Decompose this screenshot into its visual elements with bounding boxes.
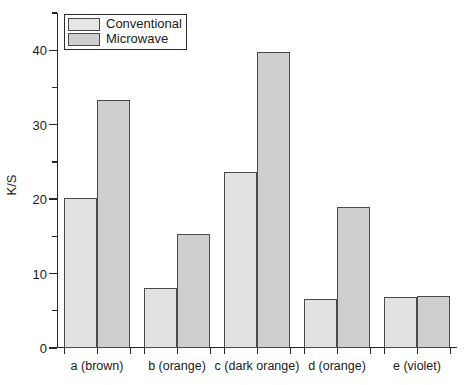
y-tick-major (49, 198, 57, 199)
bar-conventional (224, 172, 257, 348)
x-tick (144, 348, 145, 354)
x-tick (417, 348, 418, 354)
plot-area: 010203040 a (brown)b (orange)c (dark ora… (57, 13, 457, 348)
y-tick-label: 30 (33, 117, 47, 132)
bar-microwave (177, 234, 210, 348)
x-tick (130, 348, 131, 354)
x-tick (177, 348, 178, 354)
y-tick-label: 10 (33, 266, 47, 281)
y-tick-label: 40 (33, 43, 47, 58)
bar-conventional (304, 299, 337, 348)
y-tick-minor (52, 87, 57, 88)
bar-conventional (64, 198, 97, 348)
y-tick-major (49, 50, 57, 51)
y-tick-major (49, 273, 57, 274)
y-tick-minor (52, 12, 57, 13)
x-tick (290, 348, 291, 354)
bar-microwave (97, 100, 130, 348)
bar-conventional (384, 297, 417, 348)
x-tick (224, 348, 225, 354)
x-category-label: c (dark orange) (215, 359, 300, 373)
legend-swatch-conventional-icon (68, 18, 100, 31)
x-category-label: d (orange) (308, 359, 366, 373)
legend-swatch-microwave-icon (68, 33, 100, 46)
x-tick (257, 348, 258, 354)
y-tick-label: 20 (33, 192, 47, 207)
bar-microwave (417, 296, 450, 348)
y-axis-label: K/S (4, 150, 19, 220)
x-category-label: e (violet) (393, 359, 441, 373)
x-tick (337, 348, 338, 354)
chart-legend: Conventional Microwave (64, 14, 187, 50)
x-tick (97, 348, 98, 354)
x-tick (370, 348, 371, 354)
bar-microwave (257, 52, 290, 348)
x-tick (450, 348, 451, 354)
y-tick-label: 0 (40, 341, 47, 356)
bar-conventional (144, 288, 177, 348)
x-tick (304, 348, 305, 354)
y-tick-minor (52, 310, 57, 311)
y-tick-major (49, 347, 57, 348)
legend-label-conventional: Conventional (106, 17, 182, 31)
bar-chart: K/S 010203040 a (brown)b (orange)c (dark… (0, 0, 472, 385)
x-tick (210, 348, 211, 354)
legend-item-conventional: Conventional (68, 17, 182, 31)
x-category-label: a (brown) (71, 359, 124, 373)
x-category-label: b (orange) (148, 359, 206, 373)
y-axis-line (57, 13, 58, 348)
x-tick (64, 348, 65, 354)
bar-microwave (337, 207, 370, 348)
x-tick (384, 348, 385, 354)
legend-label-microwave: Microwave (106, 32, 168, 46)
y-tick-minor (52, 161, 57, 162)
y-tick-major (49, 124, 57, 125)
y-tick-minor (52, 236, 57, 237)
legend-item-microwave: Microwave (68, 32, 182, 46)
